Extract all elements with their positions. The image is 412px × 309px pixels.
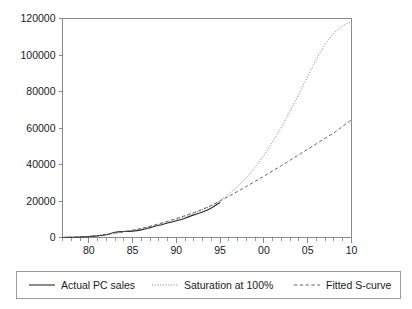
x-tick-label: 00: [258, 244, 270, 256]
y-tick-label: 0: [50, 231, 56, 243]
y-tick-label: 60000: [26, 122, 55, 134]
plot-border: [63, 19, 352, 238]
y-tick-label: 100000: [20, 49, 55, 61]
legend-label-saturation-at-100: Saturation at 100%: [184, 279, 273, 291]
series-lines: [63, 22, 352, 238]
pc-sales-line-chart: 020000400006000080000100000120000 808590…: [0, 0, 412, 309]
plot-frame: [63, 19, 352, 238]
x-tick-label: 90: [171, 244, 183, 256]
series-line-fitted-s-curve: [63, 120, 352, 238]
legend-items: Actual PC salesSaturation at 100%Fitted …: [29, 279, 392, 291]
x-axis-tick-labels: 80859095000510: [83, 244, 358, 256]
legend-label-actual-pc-sales: Actual PC sales: [61, 279, 135, 291]
series-line-actual-pc-sales: [63, 202, 221, 237]
y-tick-label: 120000: [20, 12, 55, 24]
x-tick-label: 05: [302, 244, 314, 256]
chart-container: 020000400006000080000100000120000 808590…: [0, 0, 412, 309]
y-axis-ticks: [59, 19, 63, 238]
y-tick-label: 80000: [26, 85, 55, 97]
x-tick-label: 10: [346, 244, 358, 256]
legend: Actual PC salesSaturation at 100%Fitted …: [17, 272, 401, 299]
x-tick-label: 80: [83, 244, 95, 256]
x-tick-label: 95: [214, 244, 226, 256]
x-tick-label: 85: [127, 244, 139, 256]
y-tick-label: 40000: [26, 158, 55, 170]
legend-label-fitted-s-curve: Fitted S-curve: [326, 279, 392, 291]
y-tick-label: 20000: [26, 195, 55, 207]
series-line-saturation-at-100: [63, 22, 352, 238]
y-axis-tick-labels: 020000400006000080000100000120000: [20, 12, 55, 243]
